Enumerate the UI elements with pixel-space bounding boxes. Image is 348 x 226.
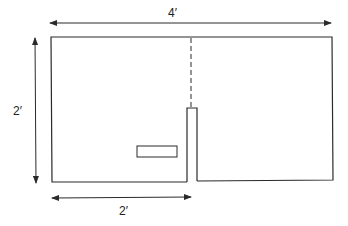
width-label: 4′ (168, 6, 177, 20)
diagram-canvas (0, 0, 348, 226)
partial-width-dimension-arrow (52, 197, 191, 198)
height-label: 2′ (13, 104, 22, 118)
height-dimension-arrow (35, 38, 36, 183)
small-block (137, 146, 177, 157)
partition-post (187, 108, 197, 182)
enclosure-outline (51, 37, 333, 182)
partial-width-label: 2′ (119, 204, 128, 218)
